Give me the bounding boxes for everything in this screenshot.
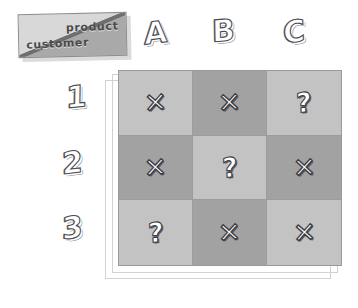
cell-mark-3a: ? (147, 218, 164, 247)
column-header-b: B (212, 15, 235, 47)
cell-mark-3b: ✕ (218, 218, 241, 247)
matrix-cell-1b[interactable]: ✕ (193, 71, 267, 136)
row-header-3: 3 (62, 211, 83, 244)
matrix-cell-1c[interactable]: ? (267, 71, 341, 136)
matrix-cell-2a[interactable]: ✕ (119, 136, 193, 201)
corner-header-cell: product customer (18, 12, 128, 58)
corner-label-customer: customer (26, 36, 89, 52)
column-header-a: A (144, 17, 168, 50)
cell-mark-1b: ✕ (218, 89, 241, 118)
cell-mark-2a: ✕ (144, 153, 167, 182)
cell-mark-2c: ✕ (292, 153, 315, 182)
matrix-cell-1a[interactable]: ✕ (119, 71, 193, 136)
cell-mark-2b: ? (221, 153, 238, 182)
cell-mark-1a: ✕ (144, 88, 167, 117)
cell-mark-3c: ✕ (292, 218, 315, 247)
row-header-1: 1 (66, 81, 87, 113)
matrix-grid: ✕ ✕ ? ✕ ? ✕ ? ✕ ✕ (118, 70, 342, 266)
column-header-c: C (283, 15, 306, 48)
matrix-cell-2c[interactable]: ✕ (267, 136, 341, 201)
matrix-cell-2b[interactable]: ? (193, 136, 267, 201)
matrix-cell-3a[interactable]: ? (119, 200, 193, 265)
matrix-cell-3c[interactable]: ✕ (267, 200, 341, 265)
matrix-cell-3b[interactable]: ✕ (193, 200, 267, 265)
corner-label-product: product (66, 20, 119, 35)
matrix-diagram: product customer A B C 1 2 3 ✕ ✕ ? ✕ ? ✕… (0, 0, 358, 308)
corner-header-face: product customer (18, 12, 128, 58)
row-header-2: 2 (62, 147, 83, 180)
cell-mark-1c: ? (296, 88, 313, 117)
